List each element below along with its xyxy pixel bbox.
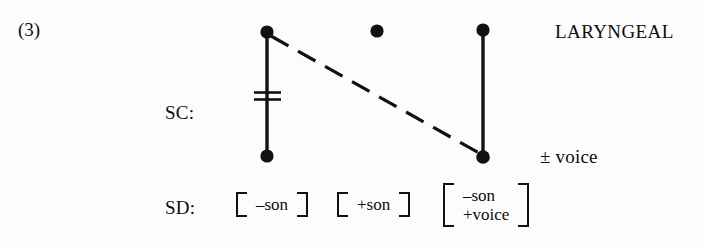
bracket-left-icon	[236, 192, 247, 217]
feature-list: –son +voice	[454, 183, 518, 227]
feature-matrix-2: +son	[337, 192, 410, 217]
spreading-line-dashed	[271, 36, 479, 153]
feature-value: +son	[357, 195, 390, 214]
node-n1-bottom	[260, 149, 273, 162]
feature-list: –son	[247, 192, 297, 217]
bracket-right-icon	[297, 192, 308, 217]
bracket-left-icon	[443, 183, 454, 227]
feature-list: +son	[348, 192, 399, 217]
feature-matrix-1: –son	[236, 192, 308, 217]
feature-matrix-3: –son +voice	[443, 183, 529, 227]
node-n3-bottom	[476, 150, 490, 164]
feature-value: –son	[463, 186, 495, 205]
rule-diagram-page: (3) SC: SD: LARYNGEAL ± voice –son +so	[0, 0, 703, 248]
feature-value: +voice	[463, 205, 509, 224]
feature-value: –son	[256, 195, 288, 214]
node-n2-top	[370, 24, 383, 37]
bracket-right-icon	[518, 183, 529, 227]
node-n3-top	[476, 23, 489, 36]
node-n1-top	[260, 25, 273, 38]
bracket-right-icon	[399, 192, 410, 217]
bracket-left-icon	[337, 192, 348, 217]
